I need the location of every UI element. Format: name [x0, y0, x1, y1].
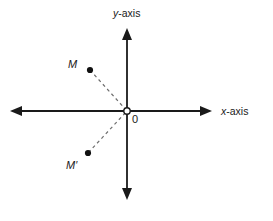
point-label-m-prime: M′ [66, 160, 77, 171]
x-axis-group [10, 106, 212, 116]
x-axis-label: x-axis [221, 106, 248, 117]
y-axis-top-arrowhead [122, 28, 132, 40]
y-axis-bottom-arrowhead [122, 188, 132, 200]
x-axis-label-suffix: -axis [226, 105, 248, 117]
x-axis-left-arrowhead [10, 106, 22, 116]
point-marker-m-prime [85, 150, 91, 156]
y-axis-label: y-axis [113, 8, 140, 19]
origin-label: 0 [132, 114, 138, 125]
origin-marker [124, 108, 130, 114]
y-axis-label-suffix: -axis [118, 7, 140, 19]
point-label-m: M [68, 59, 77, 70]
coordinate-axes-figure: y-axis x-axis 0 M M′ [0, 0, 273, 221]
point-marker-m [87, 67, 93, 73]
x-axis-right-arrowhead [200, 106, 212, 116]
